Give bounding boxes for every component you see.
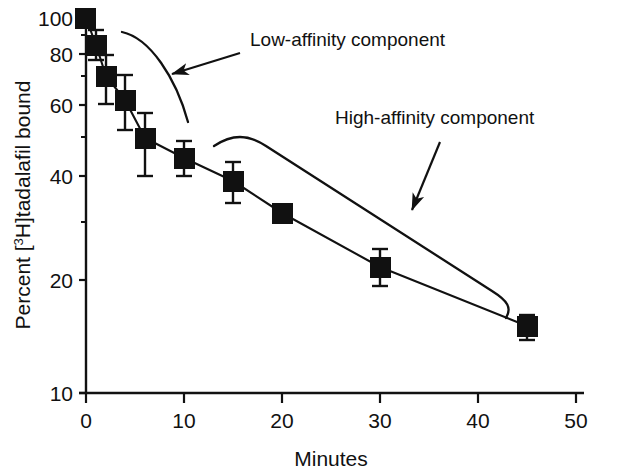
- y-tick-labels: 100 80 60 40 20 10: [38, 7, 73, 405]
- x-tick-label-20: 20: [270, 409, 293, 432]
- low-affinity-label: Low-affinity component: [250, 29, 446, 50]
- high-affinity-label: High-affinity component: [335, 107, 535, 128]
- x-tick-label-50: 50: [564, 409, 587, 432]
- y-tick-label-40: 40: [50, 165, 73, 188]
- y-tick-label-80: 80: [50, 43, 73, 66]
- data-point-marker: [75, 8, 96, 29]
- y-axis-label-prefix: Percent [: [11, 245, 34, 329]
- data-point-marker: [517, 316, 538, 337]
- axis-lines: [79, 12, 584, 393]
- y-axis-label: Percent [3H]tadalafil bound: [11, 81, 34, 330]
- x-axis-label: Minutes: [294, 447, 368, 470]
- y-tick-label-10: 10: [50, 382, 73, 405]
- y-axis-label-suffix: H]tadalafil bound: [11, 81, 34, 239]
- x-tick-label-30: 30: [368, 409, 391, 432]
- y-tick-label-60: 60: [50, 94, 73, 117]
- x-tick-label-0: 0: [80, 409, 92, 432]
- x-tick-labels: 0 10 20 30 40 50: [80, 409, 588, 432]
- error-bars: [88, 30, 535, 340]
- y-tick-label-100: 100: [38, 7, 73, 30]
- data-point-marker: [174, 148, 195, 169]
- chart-svg: 100 80 60 40 20 10 0 10 20 30 40 50 Minu…: [0, 0, 622, 475]
- data-point-marker: [223, 171, 244, 192]
- figure-canvas: 100 80 60 40 20 10 0 10 20 30 40 50 Minu…: [0, 0, 622, 475]
- data-point-marker: [96, 66, 117, 87]
- low-affinity-arrow: [172, 53, 240, 74]
- data-point-marker: [86, 35, 107, 56]
- high-affinity-bracket: [214, 137, 509, 318]
- x-axis-ticks: [86, 393, 576, 403]
- y-tick-label-20: 20: [50, 269, 73, 292]
- data-point-marker: [115, 90, 136, 111]
- x-tick-label-10: 10: [172, 409, 195, 432]
- high-affinity-arrow: [412, 142, 440, 210]
- y-axis-label-superscript: 3: [11, 238, 26, 245]
- data-point-marker: [272, 203, 293, 224]
- data-point-marker: [135, 128, 156, 149]
- x-tick-label-40: 40: [466, 409, 489, 432]
- data-point-marker: [370, 257, 391, 278]
